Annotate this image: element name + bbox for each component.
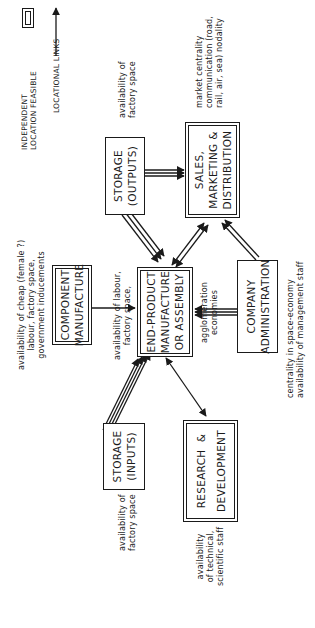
node-end-product-manufacture: END-PRODUCT MANUFACTURE OR ASSEMBLY bbox=[137, 267, 193, 357]
node-component-manufacture: COMPONENT MANUFACTURE bbox=[52, 265, 92, 345]
note-agglomeration: agglomeration economies bbox=[200, 282, 220, 343]
note-end-product: availability of labour, factory space, bbox=[113, 271, 133, 360]
link-admin-to-sales bbox=[222, 220, 259, 260]
double-border-box-icon bbox=[22, 8, 34, 28]
link-storage-outputs-to-sales bbox=[145, 170, 184, 176]
legend-label-independent: INDEPENDENT LOCATION FEASIBLE bbox=[20, 34, 38, 150]
link-end-product-rnd bbox=[166, 358, 206, 416]
node-storage-inputs: STORAGE (INPUTS) bbox=[103, 423, 145, 490]
link-storage-outputs-to-end-product bbox=[122, 209, 164, 262]
diagram-canvas: INDEPENDENT LOCATION FEASIBLE LOCATIONAL… bbox=[0, 0, 315, 628]
node-sales-marketing-distribution: SALES, MARKETING & DISTRIBUTION bbox=[185, 122, 240, 218]
link-storage-inputs-to-end-product bbox=[103, 353, 150, 430]
legend-label-links: LOCATIONAL LINKS bbox=[52, 39, 61, 113]
node-company-administration: COMPANY ADMINISTRATION bbox=[237, 260, 278, 353]
note-component: availability of cheap (female ?) labour,… bbox=[17, 240, 47, 370]
node-research-development: RESEARCH & DEVELOPMENT bbox=[183, 420, 238, 522]
note-sales: market centrality communication (road, r… bbox=[195, 16, 225, 108]
note-rnd: availability of technical, scientific st… bbox=[196, 527, 226, 586]
note-storage-outputs: availability of factory space bbox=[118, 61, 138, 118]
note-storage-inputs: availability of factory space bbox=[118, 494, 138, 551]
note-admin: centrality in space-economy availability… bbox=[286, 261, 306, 398]
link-end-product-sales bbox=[172, 223, 208, 267]
node-storage-outputs: STORAGE (OUTPUTS) bbox=[105, 137, 145, 215]
